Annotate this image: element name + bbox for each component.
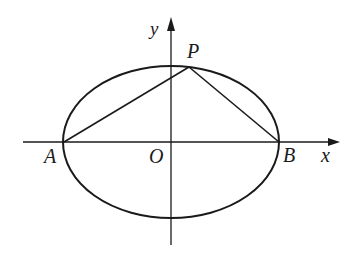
y-axis-arrow-icon — [167, 17, 175, 31]
label-x: x — [320, 144, 330, 166]
segment-ap — [64, 67, 189, 142]
label-y: y — [148, 18, 159, 39]
label-b: B — [283, 144, 295, 166]
ellipse-diagram: y P A O B x — [0, 0, 357, 259]
label-p: P — [186, 40, 199, 62]
label-a: A — [42, 145, 57, 167]
label-o: O — [149, 145, 163, 167]
